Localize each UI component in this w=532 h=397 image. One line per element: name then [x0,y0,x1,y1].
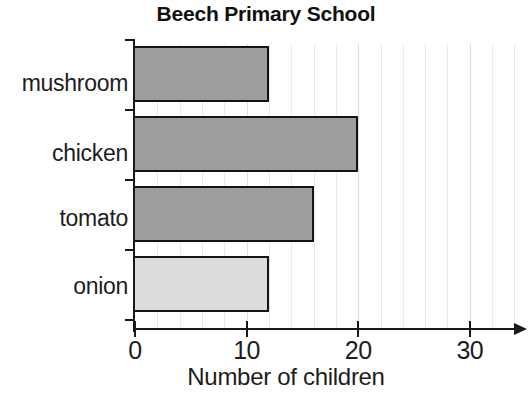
x-axis-tick [357,321,359,337]
gridline [336,44,337,329]
gridline [447,44,448,329]
x-axis-tick-label: 0 [105,336,165,365]
bar-chart-figure: Beech Primary School mushroom chicken to… [0,0,532,397]
gridline [403,44,404,329]
y-axis-line [133,40,135,332]
y-axis-tick [125,179,135,181]
y-axis-tick [125,39,135,41]
gridline [381,44,382,329]
x-axis-tick [134,321,136,337]
x-axis-tick-label: 20 [328,336,388,365]
x-axis-title: Number of children [0,363,532,391]
bar-onion [133,256,269,312]
x-axis-arrow-icon [514,323,527,335]
gridline [314,44,315,329]
gridline [358,44,359,329]
x-axis-line [133,328,518,330]
y-axis-tick [125,109,135,111]
category-label-onion: onion [0,275,128,298]
bar-mushroom [133,46,269,102]
category-label-tomato: tomato [0,207,128,230]
x-axis-tick-label: 10 [217,336,277,365]
x-axis-tick [246,321,248,337]
x-axis-tick-label: 30 [440,336,500,365]
bar-tomato [133,186,314,242]
gridline [514,44,515,329]
gridline [470,44,471,329]
gridline [492,44,493,329]
y-axis-tick [125,249,135,251]
x-axis-tick [469,321,471,337]
bar-chicken [133,116,358,172]
plot-area [135,44,520,329]
category-label-mushroom: mushroom [0,72,128,95]
gridline [425,44,426,329]
category-label-chicken: chicken [0,142,128,165]
